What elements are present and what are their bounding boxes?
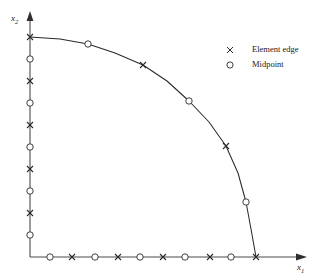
legend-markers (227, 47, 233, 68)
legend-label-element-edge: Element edge (252, 44, 299, 54)
circle-marker (137, 254, 143, 260)
cross-marker (140, 62, 146, 68)
y-axis-label: x2 (11, 13, 18, 25)
y-axis-arrowhead (27, 11, 34, 21)
cross-marker (223, 143, 229, 149)
circle-marker (228, 254, 234, 260)
circle-marker (27, 56, 33, 62)
x-axis-label: x1 (297, 262, 304, 274)
circle-marker (47, 254, 53, 260)
figure-canvas: x2 x1 Element edge Midpoint (0, 0, 323, 279)
circle-marker (27, 144, 33, 150)
circle-marker (27, 232, 33, 238)
circle-marker (92, 254, 98, 260)
circle-marker (27, 188, 33, 194)
plot-area (0, 0, 323, 279)
boundary-curve (30, 37, 256, 257)
cross-marker (227, 47, 233, 53)
circle-marker (243, 199, 249, 205)
marker-layer (27, 34, 259, 260)
circle-marker (27, 100, 33, 106)
x-axis-arrowhead (296, 253, 307, 260)
legend-label-midpoint: Midpoint (252, 59, 284, 69)
circle-marker (85, 41, 91, 47)
circle-marker (227, 62, 233, 68)
circle-marker (182, 254, 188, 260)
boundary-curve-group (30, 37, 256, 257)
circle-marker (186, 98, 192, 104)
